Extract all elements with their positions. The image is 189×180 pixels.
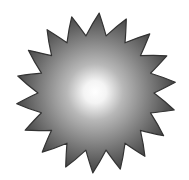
sun-body <box>17 13 176 173</box>
sun-illustration <box>0 0 189 180</box>
sun-icon <box>0 0 189 180</box>
